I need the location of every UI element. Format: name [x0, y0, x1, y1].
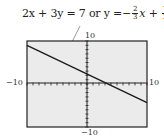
- y-min-label: −10: [81, 128, 98, 137]
- graph-window: [0, 0, 164, 140]
- x-min-label: −10: [6, 78, 23, 87]
- y-max-label: 10: [85, 31, 95, 40]
- x-max-label: 10: [149, 78, 159, 87]
